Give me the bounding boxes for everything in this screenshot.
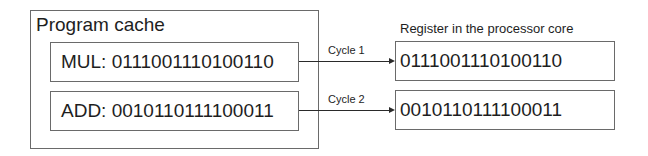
instruction-add-box: ADD: 0010110111100011 <box>50 91 299 131</box>
instruction-mul-box: MUL: 0111001110100110 <box>50 42 299 82</box>
register-value-2-text: 0010110111100011 <box>400 99 562 121</box>
cycle-2-label: Cycle 2 <box>328 93 365 106</box>
register-value-1-text: 0111001110100110 <box>400 50 562 72</box>
register-title: Register in the processor core <box>400 21 573 37</box>
cycle-1-label: Cycle 1 <box>328 44 365 57</box>
register-value-2-box: 0010110111100011 <box>395 90 615 130</box>
register-value-1-box: 0111001110100110 <box>395 41 615 81</box>
cycle-1-arrow-line <box>299 61 389 62</box>
instruction-add-text: ADD: 0010110111100011 <box>61 100 274 122</box>
program-cache-title: Program cache <box>36 14 165 36</box>
instruction-mul-text: MUL: 0111001110100110 <box>61 51 274 73</box>
cycle-2-arrow-line <box>299 110 389 111</box>
